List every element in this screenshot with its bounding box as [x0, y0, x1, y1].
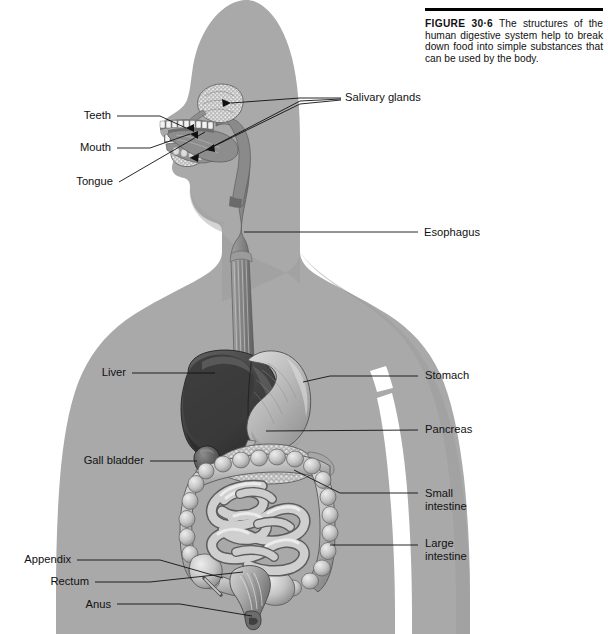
label-anus: Anus — [86, 598, 112, 611]
figure-label-word: FIGURE — [425, 18, 465, 29]
label-salivary-glands: Salivary glands — [345, 91, 421, 104]
figure-caption-block: FIGURE 30·6 The structures of the human … — [425, 8, 603, 64]
label-stomach: Stomach — [425, 369, 469, 382]
label-appendix: Appendix — [24, 553, 71, 566]
anus-organ — [245, 611, 261, 630]
label-teeth: Teeth — [84, 109, 111, 122]
digestive-system-illustration — [0, 0, 608, 634]
label-mouth: Mouth — [80, 141, 111, 154]
label-liver: Liver — [102, 366, 126, 379]
label-rectum: Rectum — [50, 575, 89, 588]
figure-root: FIGURE 30·6 The structures of the human … — [0, 0, 608, 634]
label-small-intestine: Small intestine — [425, 487, 467, 512]
label-large-intestine: Large intestine — [425, 537, 467, 562]
figure-number: 30·6 — [472, 18, 494, 29]
label-esophagus: Esophagus — [424, 226, 480, 239]
label-tongue: Tongue — [76, 175, 113, 188]
caption-rule — [425, 8, 603, 11]
label-pancreas: Pancreas — [425, 423, 472, 436]
label-gall-bladder: Gall bladder — [84, 454, 144, 467]
figure-caption-text: FIGURE 30·6 The structures of the human … — [425, 18, 603, 64]
